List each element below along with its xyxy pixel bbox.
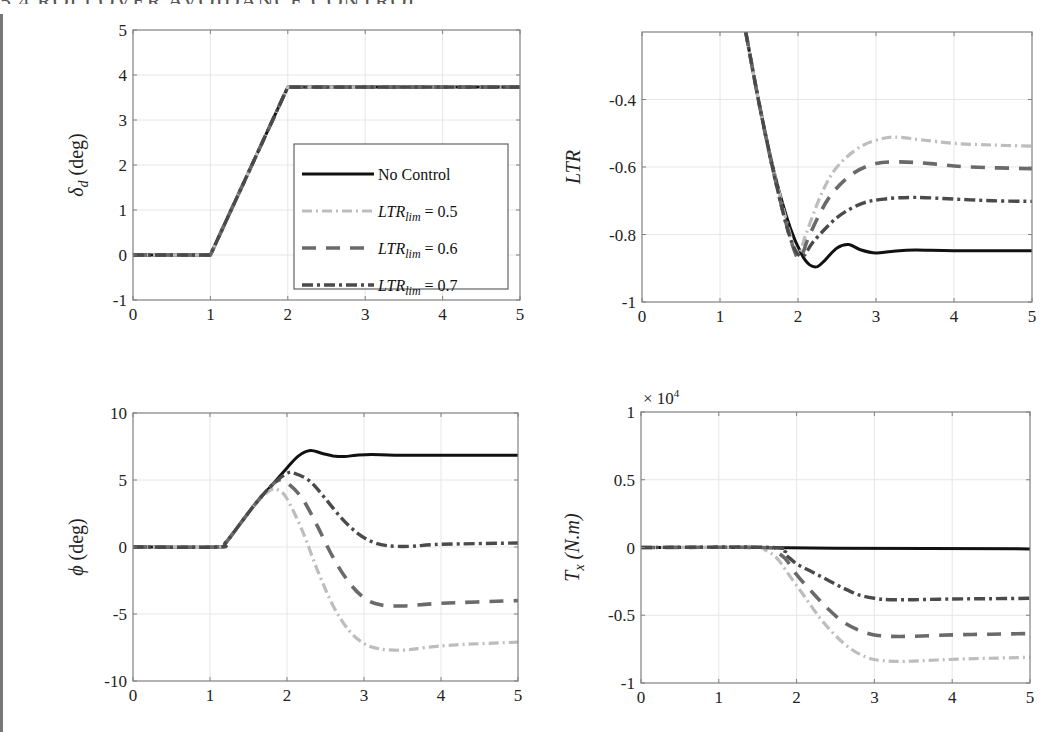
series-group <box>746 32 1032 267</box>
y-tick-label: -0.8 <box>609 226 636 245</box>
x-tick-label: 3 <box>360 686 369 705</box>
y-tick-label: -0.5 <box>608 606 635 625</box>
x-tick-label: 1 <box>716 307 725 326</box>
x-tick-label: 3 <box>872 307 881 326</box>
x-tick-label: 4 <box>438 305 447 324</box>
y-tick-label: -0.4 <box>609 91 636 110</box>
x-tick-label: 2 <box>792 688 801 707</box>
series-group <box>641 547 1030 661</box>
x-tick-label: 0 <box>129 305 138 324</box>
y-tick-label: 0 <box>119 538 128 557</box>
series-line-ltr-0-6 <box>641 547 1030 636</box>
series-line-ltr-0-7 <box>641 547 1030 600</box>
x-tick-label: 2 <box>283 686 292 705</box>
y-tick-label: -0.6 <box>609 158 636 177</box>
x-tick-label: 4 <box>950 307 959 326</box>
x-tick-label: 1 <box>715 688 724 707</box>
y-axis-label: ϕ (deg) <box>65 518 88 576</box>
y-axis-label: Tx (N.m) <box>561 513 587 582</box>
series-line-ltr-0-7 <box>133 472 518 547</box>
x-tick-label: 1 <box>206 305 215 324</box>
y-tick-label: 1 <box>119 201 128 220</box>
y-tick-label: -1 <box>113 291 127 310</box>
x-tick-label: 0 <box>637 688 646 707</box>
y-tick-label: 2 <box>119 156 128 175</box>
subplot-ltr: 012345-1-0.8-0.6-0.4LTR <box>562 32 1036 326</box>
y-axis-multiplier: × 104 <box>643 387 680 408</box>
y-axis-label: LTR <box>562 150 584 185</box>
y-tick-label: 1 <box>627 403 636 422</box>
series-line-ltr-0-5 <box>641 547 1030 661</box>
subplot-roll-angle: 012345-10-50510ϕ (deg) <box>65 404 522 705</box>
y-tick-label: -5 <box>113 605 127 624</box>
series-line-no-control <box>133 450 518 547</box>
x-tick-label: 0 <box>129 686 138 705</box>
y-axis-label: δd (deg) <box>65 133 91 197</box>
x-tick-label: 5 <box>1028 307 1037 326</box>
y-tick-label: 5 <box>119 471 128 490</box>
subplot-torque: 012345-1-0.500.51Tx (N.m)× 104 <box>561 387 1034 707</box>
y-tick-label: 0 <box>119 246 128 265</box>
figure-four-subplots: 012345-1012345δd (deg) 012345-1-0.8-0.6-… <box>0 0 1056 732</box>
legend-label: No Control <box>378 166 451 183</box>
y-tick-label: -1 <box>622 293 636 312</box>
x-tick-label: 4 <box>948 688 957 707</box>
y-tick-label: 0.5 <box>614 471 635 490</box>
x-tick-label: 1 <box>206 686 215 705</box>
y-tick-label: -10 <box>104 672 127 691</box>
y-tick-label: 0 <box>627 539 636 558</box>
x-tick-label: 3 <box>361 305 370 324</box>
x-tick-label: 4 <box>437 686 446 705</box>
x-tick-label: 5 <box>1026 688 1035 707</box>
y-tick-label: 4 <box>119 66 128 85</box>
x-tick-label: 0 <box>638 307 647 326</box>
y-tick-label: 3 <box>119 111 128 130</box>
x-tick-label: 2 <box>284 305 293 324</box>
series-line-ltr-0-5 <box>133 489 518 651</box>
x-tick-label: 5 <box>516 305 525 324</box>
x-tick-label: 2 <box>794 307 803 326</box>
legend: No ControlLTRlim = 0.5LTRlim = 0.6LTRlim… <box>294 144 508 298</box>
y-tick-label: 5 <box>119 21 128 40</box>
y-tick-label: -1 <box>621 674 635 693</box>
x-tick-label: 3 <box>870 688 879 707</box>
y-tick-label: 10 <box>110 404 127 423</box>
x-tick-label: 5 <box>514 686 523 705</box>
